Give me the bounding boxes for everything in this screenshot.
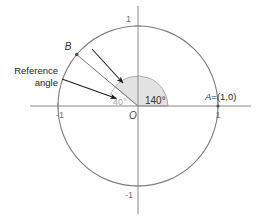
tick-label-bottom: -1 bbox=[125, 190, 133, 200]
point-a-name: A bbox=[204, 91, 211, 102]
point-a-value: =(1,0) bbox=[211, 91, 236, 102]
origin-label: O bbox=[129, 110, 137, 121]
point-b-label: B bbox=[65, 41, 72, 52]
reference-angle-callout-line1: Reference bbox=[14, 65, 58, 76]
callout-arrow-to-reference-arc bbox=[62, 79, 117, 99]
tick-label-right: 1 bbox=[215, 110, 220, 120]
unit-circle-diagram: 1 -1 -1 1 O B A=(1,0) 140° 40° Reference… bbox=[0, 0, 264, 220]
reference-angle-arc bbox=[111, 87, 116, 96]
callout-arrow-to-terminal-ray bbox=[92, 49, 123, 83]
tick-label-top: 1 bbox=[126, 14, 131, 24]
point-b-marker bbox=[75, 53, 78, 56]
tick-label-left: -1 bbox=[56, 110, 64, 120]
reference-angle-callout-line2: angle bbox=[35, 77, 58, 88]
point-a-label: A=(1,0) bbox=[204, 91, 236, 102]
unit-circle-figure: 1 -1 -1 1 O B A=(1,0) 140° 40° Reference… bbox=[0, 0, 264, 220]
angle-main-label: 140° bbox=[145, 95, 166, 106]
point-a-marker bbox=[217, 105, 220, 108]
reference-angle-value-label: 40° bbox=[113, 97, 127, 107]
